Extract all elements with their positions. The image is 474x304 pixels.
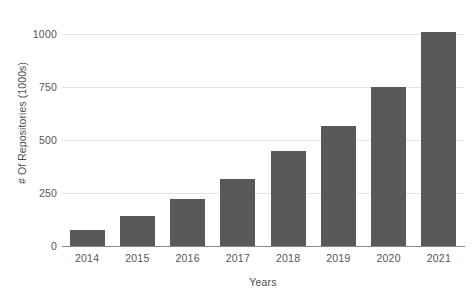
bar-slot (163, 21, 213, 246)
bar[interactable] (421, 32, 456, 246)
x-axis-line (62, 246, 465, 247)
bar-slot (313, 21, 363, 246)
bar[interactable] (120, 216, 155, 246)
bar-slot (213, 21, 263, 246)
bar[interactable] (170, 199, 205, 246)
bar[interactable] (321, 126, 356, 246)
x-axis-tick-label: 2016 (163, 250, 213, 266)
bar[interactable] (70, 230, 105, 246)
bar[interactable] (271, 151, 306, 246)
x-axis-tick-labels: 20142015201620172018201920202021 (62, 250, 464, 268)
x-axis-tick-label: 2021 (414, 250, 464, 266)
bar-chart-figure: # Of Repositories (1000s) 02505007501000… (0, 0, 474, 304)
bar[interactable] (220, 179, 255, 246)
bar-slot (414, 21, 464, 246)
y-axis-tick-label: 0 (5, 241, 57, 251)
bar-slot (364, 21, 414, 246)
x-axis-tick-label: 2018 (263, 250, 313, 266)
y-axis-tick-label: 500 (5, 135, 57, 145)
x-axis-title: Years (62, 276, 464, 288)
bar-slot (263, 21, 313, 246)
x-axis-tick-label: 2014 (62, 250, 112, 266)
bar[interactable] (371, 87, 406, 246)
x-axis-tick-label: 2019 (313, 250, 363, 266)
x-axis-tick-label: 2017 (213, 250, 263, 266)
bar-slot (62, 21, 112, 246)
y-axis-tick-label: 1000 (5, 29, 57, 39)
x-axis-tick-label: 2020 (364, 250, 414, 266)
x-axis-tick-label: 2015 (112, 250, 162, 266)
y-axis-tick-label: 750 (5, 82, 57, 92)
bar-slot (112, 21, 162, 246)
y-axis-tick-label: 250 (5, 188, 57, 198)
y-axis-tick-labels: 02505007501000 (0, 0, 57, 304)
plot-area (62, 21, 464, 246)
